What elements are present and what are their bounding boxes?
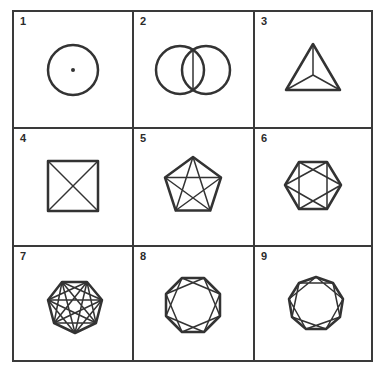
cell-1: 1 (14, 12, 134, 129)
square-icon (14, 129, 132, 245)
figure-grid: 1 2 3 4 5 (12, 10, 373, 362)
cell-5: 5 (134, 129, 255, 247)
cell-4: 4 (14, 129, 134, 247)
hexagon-icon (255, 129, 371, 245)
cell-7: 7 (14, 247, 134, 360)
cell-3: 3 (255, 12, 371, 129)
heptagon-icon (14, 247, 132, 360)
pentagon-icon (134, 129, 253, 245)
overlapping-circles-icon (134, 12, 253, 127)
cell-6: 6 (255, 129, 371, 247)
cell-9: 9 (255, 247, 371, 360)
triangle-icon (255, 12, 371, 127)
cell-8: 8 (134, 247, 255, 360)
circle-with-center-dot-icon (14, 12, 132, 127)
octagon-icon (134, 247, 253, 360)
nonagon-icon (255, 247, 371, 360)
cell-2: 2 (134, 12, 255, 129)
